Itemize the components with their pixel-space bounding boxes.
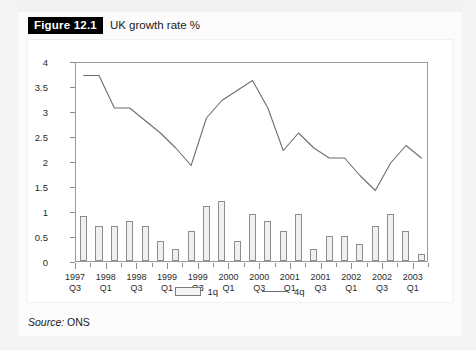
y-axis-tick-label: 0.5 <box>35 232 48 243</box>
x-axis-tick-mark <box>182 263 183 267</box>
bar <box>95 226 102 261</box>
figure-container: Figure 12.1 UK growth rate % 00.511.522.… <box>0 0 476 350</box>
x-axis-tick-mark <box>336 263 337 267</box>
y-axis-tick-label: 4 <box>43 57 48 68</box>
x-axis-tick-mark <box>367 263 368 267</box>
bar <box>157 241 164 261</box>
bar <box>249 214 256 262</box>
bar <box>295 214 302 262</box>
x-axis-tick-mark <box>413 263 414 269</box>
page-band-right <box>462 0 476 350</box>
x-axis-tick-label-year: 2002 <box>372 272 392 283</box>
x-axis-tick-mark <box>106 263 107 269</box>
x-axis-tick-mark <box>397 263 398 267</box>
bar <box>126 221 133 261</box>
x-axis-tick-mark <box>259 263 260 269</box>
legend-entry-1q: 1q <box>175 286 218 297</box>
x-axis-tick-mark <box>351 263 352 269</box>
bar <box>326 236 333 261</box>
x-axis-tick-mark <box>290 263 291 269</box>
bar <box>310 249 317 262</box>
bar <box>218 201 225 261</box>
x-axis-tick-label-year: 1998 <box>96 272 116 283</box>
bar <box>80 216 87 261</box>
figure-number-badge: Figure 12.1 <box>28 17 103 34</box>
x-axis-tick-mark <box>321 263 322 269</box>
y-axis-tick-label: 0 <box>43 257 48 268</box>
figure-title: UK growth rate % <box>110 20 200 32</box>
x-axis-tick-mark <box>198 263 199 269</box>
x-axis-tick-mark <box>167 263 168 269</box>
x-axis-tick-label-year: 1997 <box>65 272 85 283</box>
x-axis-tick-mark <box>152 263 153 267</box>
x-axis-tick-mark <box>213 263 214 267</box>
bar <box>280 231 287 261</box>
legend-entry-4q: 4q <box>262 286 305 297</box>
bar <box>387 214 394 262</box>
x-axis-tick-label-year: 2000 <box>218 272 238 283</box>
legend-label-4q: 4q <box>294 286 305 297</box>
x-axis-tick-mark <box>244 263 245 267</box>
plot-frame <box>75 62 428 262</box>
y-axis-tick-label: 3.5 <box>35 82 48 93</box>
y-axis-tick-label: 1.5 <box>35 182 48 193</box>
source-prefix: Source: <box>28 316 64 328</box>
x-axis-tick-mark <box>90 263 91 267</box>
legend-line-swatch-icon <box>262 291 288 292</box>
chart-legend: 1q 4q <box>28 286 452 297</box>
bar <box>111 226 118 261</box>
bar <box>203 206 210 261</box>
x-axis-tick-label-year: 2002 <box>341 272 361 283</box>
page-band-left <box>0 0 18 350</box>
x-axis-tick-label-year: 2001 <box>280 272 300 283</box>
bar <box>372 226 379 261</box>
bar <box>188 231 195 261</box>
bar <box>264 221 271 261</box>
y-axis-tick-label: 2.5 <box>35 132 48 143</box>
bar <box>142 226 149 261</box>
x-axis-tick-label-year: 2000 <box>249 272 269 283</box>
x-axis-tick-mark <box>305 263 306 267</box>
bar <box>402 231 409 261</box>
bar <box>356 244 363 262</box>
source-value: ONS <box>67 316 90 328</box>
plot-area <box>76 63 427 261</box>
x-axis-tick-mark <box>275 263 276 267</box>
bar <box>234 241 241 261</box>
x-axis-tick-mark <box>75 263 76 269</box>
legend-bar-swatch-icon <box>175 287 201 296</box>
legend-label-1q: 1q <box>207 286 218 297</box>
x-axis-tick-mark <box>136 263 137 269</box>
x-axis-tick-label-year: 1999 <box>157 272 177 283</box>
y-axis-tick-label: 3 <box>43 107 48 118</box>
x-axis-tick-mark <box>382 263 383 269</box>
x-axis-tick-label-year: 2001 <box>311 272 331 283</box>
x-axis-tick-label-year: 1999 <box>188 272 208 283</box>
page-band-top <box>0 0 476 12</box>
y-axis-tick-label: 1 <box>43 207 48 218</box>
bar <box>418 254 425 262</box>
x-axis-tick-label-year: 1998 <box>126 272 146 283</box>
y-axis-tick-label: 2 <box>43 157 48 168</box>
x-axis-tick-label-year: 2003 <box>403 272 423 283</box>
figure-caption: Figure 12.1 UK growth rate % <box>28 17 200 34</box>
x-axis-tick-mark <box>228 263 229 269</box>
x-axis-tick-mark <box>428 263 429 267</box>
bar <box>172 249 179 262</box>
source-note: Source: ONS <box>28 316 90 328</box>
page-band-bottom <box>0 336 476 350</box>
chart-panel: 00.511.522.533.54 1997Q31998Q11998Q31999… <box>28 40 452 302</box>
bar <box>341 236 348 261</box>
x-axis-tick-mark <box>121 263 122 267</box>
